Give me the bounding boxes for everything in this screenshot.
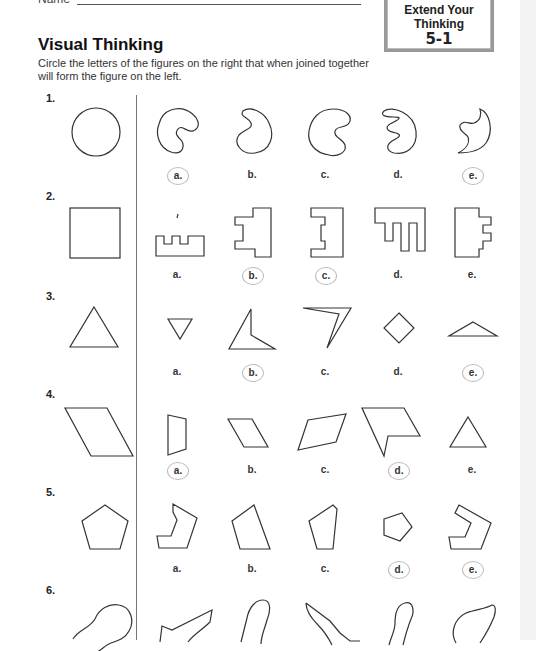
problem-number: 2. bbox=[46, 190, 55, 202]
option-shape-5d bbox=[382, 511, 414, 543]
option-shape-5c bbox=[307, 503, 341, 551]
option-1b[interactable]: b. bbox=[242, 167, 262, 183]
page-title: Visual Thinking bbox=[38, 35, 163, 55]
badge-line-2: Thinking bbox=[387, 17, 491, 31]
option-shape-2e bbox=[453, 207, 495, 259]
option-4b[interactable]: b. bbox=[242, 462, 262, 478]
option-shape-2a bbox=[154, 212, 208, 258]
option-shape-1b bbox=[235, 107, 279, 157]
name-label: Name bbox=[38, 0, 70, 6]
option-shape-2d bbox=[373, 207, 427, 255]
target-circle bbox=[70, 106, 122, 158]
target-blob bbox=[65, 601, 135, 651]
problem-number: 4. bbox=[46, 388, 55, 400]
option-3e[interactable]: e. bbox=[462, 364, 484, 382]
problem-number: 1. bbox=[46, 92, 55, 104]
badge-line-1: Extend Your bbox=[387, 3, 491, 17]
option-1e[interactable]: e. bbox=[462, 167, 484, 185]
instructions: Circle the letters of the figures on the… bbox=[38, 57, 378, 83]
option-shape-3e bbox=[447, 320, 499, 338]
option-shape-6c bbox=[304, 601, 364, 645]
option-shape-4d bbox=[360, 406, 422, 458]
target-parallelogram bbox=[63, 406, 135, 458]
problem-number: 3. bbox=[46, 290, 55, 302]
badge-lesson-number: 5-1 bbox=[387, 31, 491, 47]
option-5c[interactable]: c. bbox=[315, 561, 335, 577]
option-2e[interactable]: e. bbox=[462, 267, 482, 283]
option-2d[interactable]: d. bbox=[388, 267, 408, 283]
option-shape-4a bbox=[166, 413, 190, 457]
option-2c[interactable]: c. bbox=[315, 267, 337, 285]
option-5b[interactable]: b. bbox=[242, 561, 262, 577]
option-shape-1a bbox=[157, 108, 203, 156]
option-3b[interactable]: b. bbox=[242, 364, 264, 382]
option-4c[interactable]: c. bbox=[315, 462, 335, 478]
option-4e[interactable]: e. bbox=[462, 462, 482, 478]
option-shape-2b bbox=[233, 207, 275, 259]
option-shape-3b bbox=[227, 307, 279, 351]
option-shape-5e bbox=[447, 503, 493, 551]
option-shape-4c bbox=[296, 412, 348, 454]
option-4d[interactable]: d. bbox=[388, 462, 410, 480]
problem-number: 5. bbox=[46, 486, 55, 498]
option-5d[interactable]: d. bbox=[388, 561, 410, 579]
option-shape-2c bbox=[309, 207, 347, 259]
option-1d[interactable]: d. bbox=[388, 167, 408, 183]
option-5e[interactable]: e. bbox=[462, 561, 484, 579]
option-shape-4e bbox=[448, 415, 488, 449]
target-square bbox=[69, 207, 121, 259]
option-2b[interactable]: b. bbox=[242, 267, 264, 285]
option-3a[interactable]: a. bbox=[167, 364, 187, 380]
option-shape-6d bbox=[385, 601, 421, 645]
option-shape-5a bbox=[155, 502, 201, 550]
target-triangle bbox=[68, 305, 120, 349]
option-1c[interactable]: c. bbox=[315, 167, 335, 183]
option-5a[interactable]: a. bbox=[167, 561, 187, 577]
option-shape-6b bbox=[237, 598, 277, 644]
column-divider bbox=[136, 95, 137, 640]
option-shape-6a bbox=[158, 606, 216, 646]
option-shape-1c bbox=[307, 107, 355, 157]
option-shape-1e bbox=[456, 107, 496, 157]
option-shape-3d bbox=[382, 311, 416, 345]
problem-number: 6. bbox=[46, 584, 55, 596]
option-shape-3a bbox=[166, 317, 194, 341]
option-2a[interactable]: a. bbox=[167, 267, 187, 283]
name-field-line[interactable] bbox=[77, 4, 361, 5]
option-shape-3c bbox=[301, 306, 353, 350]
option-4a[interactable]: a. bbox=[167, 462, 189, 480]
target-pentagon bbox=[80, 503, 130, 551]
option-1a[interactable]: a. bbox=[167, 167, 189, 185]
option-3c[interactable]: c. bbox=[315, 364, 335, 380]
option-shape-1d bbox=[380, 107, 420, 157]
lesson-badge: Extend Your Thinking 5-1 bbox=[384, 0, 494, 52]
option-shape-6e bbox=[450, 603, 502, 643]
option-3d[interactable]: d. bbox=[388, 364, 408, 380]
page-edge bbox=[520, 0, 536, 640]
option-shape-4b bbox=[226, 417, 270, 449]
option-shape-5b bbox=[230, 503, 274, 551]
